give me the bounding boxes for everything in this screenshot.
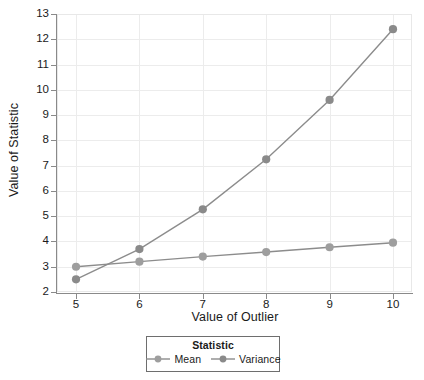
x-axis-tick-label: 7 (183, 298, 223, 310)
legend-entries: MeanVariance (147, 353, 279, 365)
series-line-variance (76, 29, 393, 279)
x-axis-tick-label: 10 (373, 298, 413, 310)
chart-container: Value of Statistic 2345678910111213 5678… (0, 0, 424, 380)
legend-entry-mean[interactable]: Mean (145, 353, 201, 365)
x-axis-tick-label: 8 (246, 298, 286, 310)
x-axis-tick-label: 6 (119, 298, 159, 310)
x-axis-title: Value of Outlier (50, 310, 420, 324)
data-point-variance (72, 275, 80, 283)
legend: Statistic MeanVariance (146, 336, 280, 372)
data-point-variance (389, 25, 397, 33)
x-axis-line (56, 293, 413, 294)
legend-swatch-variance (210, 353, 236, 365)
legend-swatch-mean (145, 353, 171, 365)
data-point-mean (325, 243, 333, 251)
x-axis-tick-label: 5 (56, 298, 96, 310)
legend-label: Mean (174, 353, 201, 365)
data-point-mean (135, 258, 143, 266)
data-point-mean (72, 263, 80, 271)
data-point-variance (262, 155, 270, 163)
data-point-mean (262, 248, 270, 256)
data-point-variance (135, 245, 143, 253)
legend-title: Statistic (147, 339, 279, 351)
legend-label: Variance (239, 353, 280, 365)
legend-entry-variance[interactable]: Variance (210, 353, 280, 365)
data-point-mean (199, 253, 207, 261)
data-point-variance (325, 96, 333, 104)
x-axis-tick-label: 9 (310, 298, 350, 310)
series-line-mean (76, 243, 393, 267)
data-point-variance (199, 205, 207, 213)
data-point-mean (389, 239, 397, 247)
